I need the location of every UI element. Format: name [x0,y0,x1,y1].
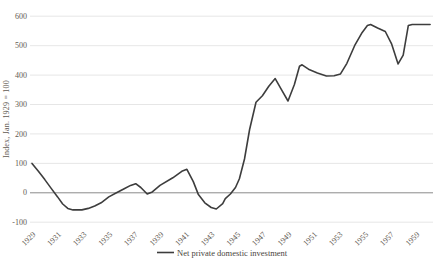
y-tick-label: 0 [23,188,27,197]
grid-layer [30,16,433,222]
y-tick-label: -100 [12,218,27,227]
x-tick-label: 1933 [71,230,89,248]
legend-label: Net private domestic investment [177,248,288,258]
chart-svg: 6005004003002001000-100 1929193119331935… [0,0,433,264]
x-tick-label: 1957 [378,230,396,248]
x-tick-label: 1931 [45,230,63,248]
x-tick-label: 1953 [327,230,345,248]
data-line-net-private-domestic-investment [32,25,430,210]
x-tick-label: 1955 [353,230,371,248]
chart-container: 6005004003002001000-100 1929193119331935… [0,0,433,264]
y-tick-label: 400 [15,71,27,80]
x-tick-label: 1951 [301,230,319,248]
x-tick-label: 1949 [276,230,294,248]
series-layer [32,25,430,210]
x-tick-label: 1937 [122,230,140,248]
x-tick-label: 1945 [225,230,243,248]
y-tick-label: 600 [15,12,27,21]
x-axis-tick-labels: 1929193119331935193719391941194319451947… [20,230,422,248]
x-tick-label: 1935 [97,230,115,248]
y-tick-label: 100 [15,159,27,168]
y-tick-label: 200 [15,130,27,139]
x-tick-label: 1941 [173,230,191,248]
x-tick-label: 1947 [250,230,268,248]
y-axis-title: Index, Jan. 1929 = 100 [2,80,11,158]
x-tick-label: 1943 [199,230,217,248]
x-tick-label: 1939 [148,230,166,248]
x-tick-label: 1929 [20,230,38,248]
x-tick-label: 1959 [404,230,422,248]
legend: Net private domestic investment [157,248,288,258]
y-tick-label: 500 [15,41,27,50]
y-axis-tick-labels: 6005004003002001000-100 [12,12,27,227]
y-tick-label: 300 [15,100,27,109]
